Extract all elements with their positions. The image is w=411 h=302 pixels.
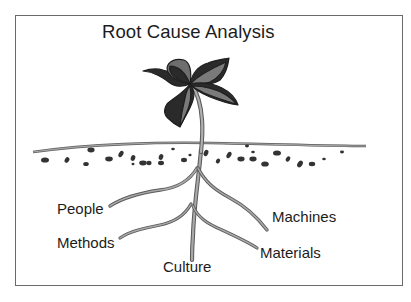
root-label-methods: Methods [57,235,115,250]
root-people [110,168,197,206]
plant-illustration [0,0,411,302]
root-machines [198,168,267,230]
root-label-materials: Materials [260,245,321,260]
root-label-people: People [57,201,104,216]
root-label-culture: Culture [163,259,211,274]
root-methods [120,204,191,238]
soil-stones-icon [41,145,344,169]
plant-leaves-icon [143,58,238,127]
roots [110,150,267,260]
root-label-machines: Machines [272,209,336,224]
root-materials [193,206,257,248]
